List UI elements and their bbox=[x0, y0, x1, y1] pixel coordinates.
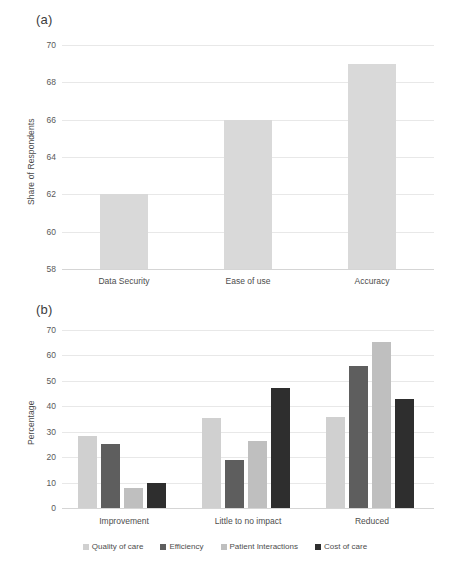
bar-cost-of-care bbox=[271, 388, 290, 508]
y-axis-tick-label: 60 bbox=[47, 350, 56, 360]
bar-group bbox=[310, 45, 434, 269]
bar-patient-interactions bbox=[248, 441, 267, 508]
y-axis-tick-label: 70 bbox=[47, 325, 56, 335]
bar-efficiency bbox=[225, 460, 244, 508]
panel-b-label: (b) bbox=[36, 302, 53, 317]
legend-swatch-icon bbox=[221, 544, 227, 550]
panel-a-bars bbox=[62, 45, 434, 269]
y-axis-tick-label: 70 bbox=[47, 40, 56, 50]
legend-swatch-icon bbox=[160, 544, 166, 550]
panel-a-label: (a) bbox=[36, 12, 53, 27]
panel-a-plot-area: 58606264666870 bbox=[62, 45, 434, 269]
bar-group bbox=[62, 45, 186, 269]
panel-b-y-axis-label: Percentage bbox=[26, 401, 36, 445]
panel-b-x-axis-labels: ImprovementLittle to no impactReduced bbox=[62, 516, 434, 526]
bar-accuracy bbox=[348, 64, 396, 269]
bar-quality-of-care bbox=[326, 417, 345, 508]
y-axis-tick-label: 50 bbox=[47, 376, 56, 386]
bar-data-security bbox=[100, 194, 148, 269]
gridline: 58 bbox=[62, 269, 434, 270]
panel-b-legend: Quality of careEfficiencyPatient Interac… bbox=[0, 542, 450, 551]
panel-b: (b) Percentage 010203040506070 Improveme… bbox=[0, 292, 450, 579]
legend-swatch-icon bbox=[315, 544, 321, 550]
legend-item: Efficiency bbox=[160, 542, 203, 551]
bar-group bbox=[62, 330, 186, 508]
legend-swatch-icon bbox=[83, 544, 89, 550]
bar-ease-of-use bbox=[224, 120, 272, 269]
legend-item: Quality of care bbox=[83, 542, 144, 551]
bar-patient-interactions bbox=[372, 342, 391, 508]
legend-label: Patient Interactions bbox=[230, 542, 298, 551]
legend-label: Cost of care bbox=[324, 542, 367, 551]
y-axis-tick-label: 62 bbox=[47, 189, 56, 199]
bar-group bbox=[310, 330, 434, 508]
y-axis-tick-label: 30 bbox=[47, 427, 56, 437]
y-axis-tick-label: 20 bbox=[47, 452, 56, 462]
panel-a: (a) Share of Respondents 58606264666870 … bbox=[0, 0, 450, 292]
bar-quality-of-care bbox=[78, 436, 97, 508]
bar-cost-of-care bbox=[147, 483, 166, 508]
bar-efficiency bbox=[349, 366, 368, 508]
y-axis-tick-label: 66 bbox=[47, 115, 56, 125]
y-axis-tick-label: 60 bbox=[47, 227, 56, 237]
bar-group bbox=[186, 45, 310, 269]
panel-b-plot-area: 010203040506070 bbox=[62, 330, 434, 508]
legend-label: Efficiency bbox=[169, 542, 203, 551]
x-axis-tick-label: Reduced bbox=[310, 516, 434, 526]
y-axis-tick-label: 40 bbox=[47, 401, 56, 411]
bar-cost-of-care bbox=[395, 399, 414, 508]
y-axis-tick-label: 58 bbox=[47, 264, 56, 274]
panel-a-x-axis-labels: Data SecurityEase of useAccuracy bbox=[62, 276, 434, 286]
bar-quality-of-care bbox=[202, 418, 221, 508]
x-axis-tick-label: Little to no impact bbox=[186, 516, 310, 526]
y-axis-tick-label: 64 bbox=[47, 152, 56, 162]
bar-group bbox=[186, 330, 310, 508]
legend-label: Quality of care bbox=[92, 542, 144, 551]
y-axis-tick-label: 68 bbox=[47, 77, 56, 87]
x-axis-tick-label: Data Security bbox=[62, 276, 186, 286]
x-axis-tick-label: Ease of use bbox=[186, 276, 310, 286]
x-axis-tick-label: Improvement bbox=[62, 516, 186, 526]
legend-item: Patient Interactions bbox=[221, 542, 298, 551]
panel-a-y-axis-label: Share of Respondents bbox=[26, 118, 36, 205]
x-axis-tick-label: Accuracy bbox=[310, 276, 434, 286]
bar-efficiency bbox=[101, 444, 120, 508]
bar-patient-interactions bbox=[124, 488, 143, 508]
panel-b-bars bbox=[62, 330, 434, 508]
gridline: 0 bbox=[62, 508, 434, 509]
y-axis-tick-label: 10 bbox=[47, 478, 56, 488]
y-axis-tick-label: 0 bbox=[51, 503, 56, 513]
legend-item: Cost of care bbox=[315, 542, 367, 551]
